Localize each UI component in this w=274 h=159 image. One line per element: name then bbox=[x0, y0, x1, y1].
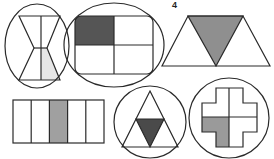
figure-cross-in-circle bbox=[189, 78, 269, 158]
shapes-canvas bbox=[0, 0, 274, 159]
figure-triangle-in-circle bbox=[114, 86, 186, 158]
figure-trapezoid-of-triangles bbox=[162, 16, 270, 66]
shaded-part-mid bbox=[188, 16, 243, 66]
figure-rectangle-strips bbox=[13, 100, 104, 143]
fraction-shapes-diagram: 4 bbox=[0, 0, 274, 159]
shaded-part-mid bbox=[49, 100, 67, 143]
figure-rounded-rect-in-ellipse bbox=[64, 3, 164, 87]
shaded-part-dark bbox=[75, 16, 114, 45]
shaded-part-light bbox=[41, 48, 60, 80]
figure-hourglass-in-ellipse bbox=[5, 4, 69, 88]
shaded-part-dark bbox=[136, 119, 164, 147]
